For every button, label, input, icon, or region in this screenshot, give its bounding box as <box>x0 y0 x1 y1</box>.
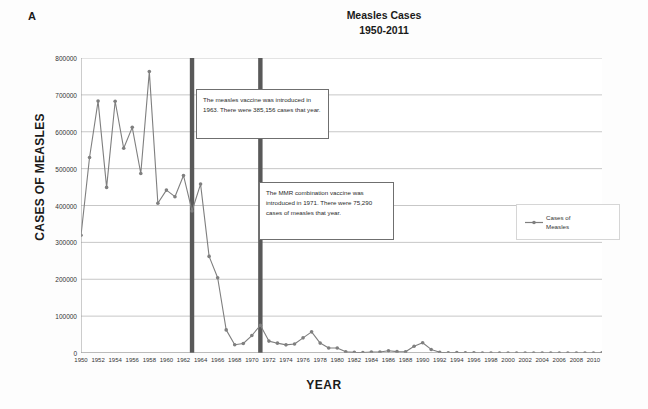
figure-panel-a: A Measles Cases 1950-2011 CASES OF MEASL… <box>0 0 648 409</box>
page-title: Measles Cases 1950-2011 <box>164 8 604 38</box>
data-point <box>429 348 433 352</box>
data-point <box>301 336 305 340</box>
data-point <box>165 188 169 192</box>
data-point <box>335 346 339 350</box>
x-tick-label: 1996 <box>467 357 480 363</box>
y-tick-label: 800000 <box>55 55 77 62</box>
y-axis-label: CASES OF MEASLES <box>33 77 47 277</box>
legend-line-marker-icon <box>525 218 543 227</box>
data-point <box>139 172 143 176</box>
x-tick-label: 1958 <box>143 357 156 363</box>
x-tick-label: 1954 <box>108 357 121 363</box>
annotation-mmr-vaccine-1971: The MMR combination vaccine was introduc… <box>259 182 394 240</box>
y-tick-label: 100000 <box>55 313 77 320</box>
x-tick-label: 1990 <box>416 357 429 363</box>
x-tick-label: 1982 <box>348 357 361 363</box>
x-tick-label: 1972 <box>262 357 275 363</box>
data-point <box>182 174 186 178</box>
data-point <box>216 276 220 280</box>
legend-label-line2: Measles <box>546 222 570 231</box>
y-tick-label: 400000 <box>55 202 77 209</box>
data-point <box>310 330 314 334</box>
chart-legend: Cases of Measles <box>516 204 620 240</box>
x-tick-label: 1988 <box>399 357 412 363</box>
x-tick-label: 2006 <box>553 357 566 363</box>
data-point <box>88 156 92 160</box>
x-tick-label: 1960 <box>160 357 173 363</box>
data-point <box>250 334 254 338</box>
data-point <box>412 344 416 348</box>
y-tick-label: 700000 <box>55 91 77 98</box>
data-point <box>199 182 203 186</box>
x-tick-label: 1956 <box>126 357 139 363</box>
x-tick-label: 1980 <box>331 357 344 363</box>
data-point <box>421 341 425 345</box>
data-point <box>156 201 160 205</box>
data-point <box>113 99 117 103</box>
x-tick-label: 1986 <box>382 357 395 363</box>
data-point <box>122 146 126 150</box>
x-tick-label: 1968 <box>228 357 241 363</box>
data-point <box>130 126 134 130</box>
x-tick-label: 2008 <box>570 357 583 363</box>
x-tick-label: 1964 <box>194 357 207 363</box>
data-point <box>173 195 177 199</box>
x-tick-label: 2000 <box>501 357 514 363</box>
x-tick-label: 1976 <box>296 357 309 363</box>
y-tick-label: 500000 <box>55 165 77 172</box>
legend-entry-label: Cases of Measles <box>546 213 570 231</box>
x-tick-label: 1998 <box>484 357 497 363</box>
data-point <box>207 255 211 259</box>
data-point <box>233 343 237 347</box>
x-tick-label: 1962 <box>177 357 190 363</box>
data-point <box>293 342 297 346</box>
data-point <box>327 346 331 350</box>
x-tick-label: 1970 <box>245 357 258 363</box>
data-point <box>224 328 228 332</box>
x-tick-label: 2010 <box>587 357 600 363</box>
data-point <box>276 341 280 345</box>
legend-label-line1: Cases of <box>546 213 570 222</box>
y-tick-label: 0 <box>73 350 77 357</box>
annotation-measles-vaccine-1963: The measles vaccine was introduced in 19… <box>196 89 329 139</box>
panel-letter: A <box>28 10 36 22</box>
x-tick-label: 1978 <box>313 357 326 363</box>
x-tick-label: 1984 <box>365 357 378 363</box>
data-point <box>105 186 109 190</box>
x-tick-label: 1966 <box>211 357 224 363</box>
y-tick-label: 300000 <box>55 239 77 246</box>
data-point <box>259 323 263 327</box>
data-point <box>190 209 194 213</box>
data-point <box>318 341 322 345</box>
chart-title-line2: 1950-2011 <box>164 23 604 38</box>
x-axis-label: YEAR <box>0 378 648 392</box>
data-point <box>284 343 288 347</box>
x-tick-label: 1952 <box>91 357 104 363</box>
x-tick-label: 2002 <box>518 357 531 363</box>
data-point <box>387 349 391 353</box>
y-tick-label: 600000 <box>55 128 77 135</box>
x-tick-label: 1950 <box>74 357 87 363</box>
data-point <box>267 339 271 343</box>
x-tick-label: 2004 <box>536 357 549 363</box>
data-point <box>96 99 100 103</box>
data-point <box>148 70 152 74</box>
x-tick-label: 1974 <box>279 357 292 363</box>
chart-title-line1: Measles Cases <box>164 8 604 23</box>
y-tick-label: 200000 <box>55 276 77 283</box>
x-tick-label: 1994 <box>450 357 463 363</box>
x-tick-label: 1992 <box>433 357 446 363</box>
data-point <box>241 342 245 346</box>
